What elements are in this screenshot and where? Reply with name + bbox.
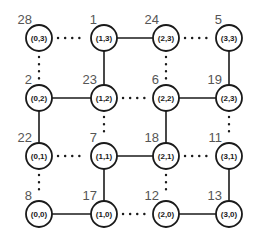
graph-node: (2,0)12 <box>145 188 179 227</box>
node-number-label: 1 <box>90 12 97 27</box>
grid-graph-diagram: (0,3)28(1,3)1(2,3)24(3,3)5(0,2)2(1,2)23(… <box>0 0 257 240</box>
node-number-label: 23 <box>83 72 97 87</box>
node-number-label: 8 <box>25 188 32 203</box>
node-coordinate: (1,3) <box>96 34 113 43</box>
node-coordinate: (3,0) <box>221 210 238 219</box>
node-number-label: 24 <box>145 12 159 27</box>
node-coordinate: (2,3) <box>221 94 238 103</box>
graph-node: (1,2)23 <box>83 72 117 111</box>
node-number-label: 22 <box>18 130 32 145</box>
graph-node: (1,1)7 <box>90 130 117 169</box>
edges-layer <box>39 38 229 214</box>
graph-node: (0,1)22 <box>18 130 52 169</box>
node-number-label: 18 <box>145 130 159 145</box>
node-number-label: 28 <box>18 12 32 27</box>
node-number-label: 5 <box>215 12 222 27</box>
node-coordinate: (1,0) <box>96 210 113 219</box>
node-number-label: 11 <box>209 130 223 145</box>
nodes-layer: (0,3)28(1,3)1(2,3)24(3,3)5(0,2)2(1,2)23(… <box>18 12 242 227</box>
graph-node: (3,0)13 <box>208 188 242 227</box>
node-number-label: 13 <box>208 188 222 203</box>
node-coordinate: (2,3) <box>158 34 175 43</box>
graph-node: (3,3)5 <box>215 12 242 51</box>
node-number-label: 7 <box>90 130 97 145</box>
node-number-label: 6 <box>152 72 159 87</box>
node-number-label: 17 <box>83 188 97 203</box>
node-number-label: 2 <box>25 72 32 87</box>
graph-node: (1,0)17 <box>83 188 117 227</box>
node-coordinate: (1,2) <box>96 94 113 103</box>
node-number-label: 19 <box>208 72 222 87</box>
graph-node: (0,3)28 <box>18 12 52 51</box>
node-coordinate: (1,1) <box>96 152 113 161</box>
graph-node: (0,0)8 <box>25 188 52 227</box>
graph-node: (2,3)24 <box>145 12 179 51</box>
node-coordinate: (3,1) <box>221 152 238 161</box>
node-coordinate: (0,0) <box>31 210 48 219</box>
node-number-label: 12 <box>145 188 159 203</box>
node-coordinate: (3,3) <box>221 34 238 43</box>
graph-node: (1,3)1 <box>90 12 117 51</box>
node-coordinate: (2,1) <box>158 152 175 161</box>
node-coordinate: (0,3) <box>31 34 48 43</box>
graph-node: (2,3)19 <box>208 72 242 111</box>
graph-node: (3,1)11 <box>209 130 243 169</box>
node-coordinate: (0,2) <box>31 94 48 103</box>
node-coordinate: (2,2) <box>158 94 175 103</box>
node-coordinate: (0,1) <box>31 152 48 161</box>
graph-node: (2,1)18 <box>145 130 179 169</box>
node-coordinate: (2,0) <box>158 210 175 219</box>
